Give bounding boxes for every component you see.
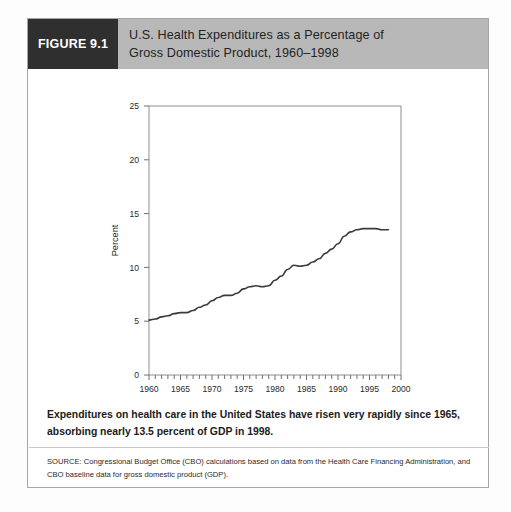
plot-border <box>149 106 401 375</box>
y-axis-tick-label: 0 <box>134 370 139 380</box>
y-axis-tick-label: 10 <box>129 263 139 273</box>
figure-source-note: SOURCE: Congressional Budget Office (CBO… <box>47 456 471 481</box>
figure-frame: FIGURE 9.1 U.S. Health Expenditures as a… <box>27 18 489 488</box>
data-line <box>149 229 388 320</box>
x-axis-tick-label: 1970 <box>202 384 221 394</box>
figure-title-line-2: Gross Domestic Product, 1960–1998 <box>129 44 488 62</box>
y-axis-tick-label: 15 <box>129 209 139 219</box>
caption-source-divider <box>29 447 489 448</box>
figure-title-bar: U.S. Health Expenditures as a Percentage… <box>118 19 488 69</box>
figure-number-bar: FIGURE 9.1 <box>28 19 118 69</box>
line-chart: 0510152025196019651970197519801985199019… <box>28 69 488 399</box>
x-axis-tick-label: 1975 <box>234 384 253 394</box>
x-axis-tick-label: 2000 <box>391 384 410 394</box>
figure-page: FIGURE 9.1 U.S. Health Expenditures as a… <box>0 0 511 512</box>
x-axis-tick-label: 1965 <box>171 384 190 394</box>
y-axis-tick-label: 25 <box>129 101 139 111</box>
x-axis-tick-label: 1980 <box>265 384 284 394</box>
x-axis-tick-label: 1990 <box>328 384 347 394</box>
figure-caption: Expenditures on health care in the Unite… <box>47 407 471 440</box>
chart-body: 0510152025196019651970197519801985199019… <box>28 69 488 399</box>
figure-header: FIGURE 9.1 U.S. Health Expenditures as a… <box>28 19 488 69</box>
y-axis-tick-label: 20 <box>129 155 139 165</box>
x-axis-tick-label: 1960 <box>139 384 158 394</box>
x-axis-tick-label: 1985 <box>297 384 316 394</box>
figure-number-label: FIGURE 9.1 <box>38 37 108 51</box>
figure-title-line-1: U.S. Health Expenditures as a Percentage… <box>129 26 488 44</box>
y-axis-tick-label: 5 <box>134 316 139 326</box>
y-axis-title: Percent <box>110 224 120 256</box>
x-axis-tick-label: 1995 <box>360 384 379 394</box>
